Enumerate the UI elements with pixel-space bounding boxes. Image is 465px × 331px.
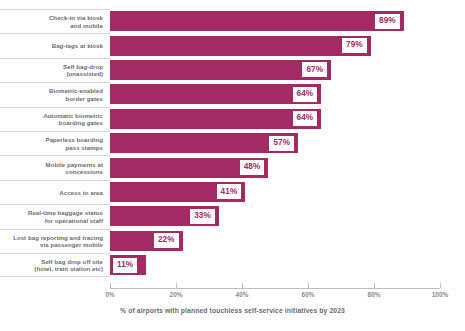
category-label: Biometric-enabledborder gates (49, 87, 103, 102)
category-label-row: Real-time baggage statusfor operational … (0, 204, 110, 228)
category-label-row: Paperless boardingpass stamps (0, 131, 110, 155)
bar-row: 89% (110, 9, 465, 33)
bar-row: 11% (110, 253, 465, 277)
bar[interactable]: 89% (110, 11, 404, 31)
bar[interactable]: 57% (110, 133, 298, 153)
bar-value-label: 41% (216, 183, 243, 200)
x-axis-tick-label: 60% (302, 291, 315, 298)
category-label: Check-in via kioskand mobile (49, 14, 103, 29)
bar-row: 48% (110, 155, 465, 179)
x-axis-tick-label: 0% (105, 291, 114, 298)
category-label-row: Self bag drop off site(hotel, train stat… (0, 253, 110, 277)
category-label-row: Biometric-enabledborder gates (0, 82, 110, 106)
category-label: Lost bag reporting and tracingvia passen… (13, 234, 103, 249)
bar-value-label: 57% (268, 135, 295, 152)
bar[interactable]: 79% (110, 36, 371, 56)
bar-value-label: 79% (341, 37, 368, 54)
bar-row: 67% (110, 58, 465, 82)
bar-row: 22% (110, 229, 465, 253)
bar-series: 89%79%67%64%64%57%48%41%33%22%11% (110, 9, 465, 277)
x-axis-tick (440, 283, 441, 288)
category-label: Automatic biometricboarding gates (43, 112, 103, 127)
bar[interactable]: 64% (110, 109, 321, 129)
bar[interactable]: 64% (110, 84, 321, 104)
bar[interactable]: 67% (110, 60, 331, 80)
category-label: Real-time baggage statusfor operational … (28, 209, 103, 224)
bar[interactable]: 41% (110, 182, 245, 202)
bar-row: 33% (110, 204, 465, 228)
category-label-row: Bag-tags at kiosk (0, 33, 110, 57)
x-axis-tick-label: 100% (432, 291, 448, 298)
category-label-row: Lost bag reporting and tracingvia passen… (0, 229, 110, 253)
bar-row: 41% (110, 180, 465, 204)
bar[interactable]: 22% (110, 231, 183, 251)
x-axis-tick-label: 20% (170, 291, 183, 298)
bar-value-label: 89% (374, 13, 401, 30)
x-axis-tick (110, 283, 111, 288)
category-label: Paperless boardingpass stamps (46, 136, 103, 151)
category-label-row: Access to area (0, 180, 110, 204)
bar-row: 64% (110, 107, 465, 131)
category-label-row: Self bag-drop(unassisted) (0, 58, 110, 82)
bar[interactable]: 48% (110, 158, 268, 178)
category-label: Mobile payments atconcessions (46, 161, 103, 176)
bar[interactable]: 33% (110, 206, 219, 226)
bar-value-label: 64% (292, 110, 319, 127)
bar-value-label: 67% (301, 61, 328, 78)
bar-row: 64% (110, 82, 465, 106)
bar[interactable]: 11% (110, 255, 146, 275)
x-axis-line (110, 288, 440, 289)
x-axis-caption: % of airports with planned touchless sel… (0, 307, 465, 314)
bar-value-label: 48% (239, 159, 266, 176)
bar-value-label: 22% (153, 232, 180, 249)
category-label-row: Check-in via kioskand mobile (0, 9, 110, 33)
x-axis-tick (308, 283, 309, 288)
category-label-row: Automatic biometricboarding gates (0, 107, 110, 131)
bar-value-label: 33% (189, 208, 216, 225)
x-axis-tick-label: 40% (236, 291, 249, 298)
category-label-row: Mobile payments atconcessions (0, 155, 110, 179)
bar-value-label: 11% (112, 257, 138, 274)
category-label: Self bag-drop(unassisted) (63, 63, 103, 78)
bar-row: 79% (110, 33, 465, 57)
x-axis-tick (242, 283, 243, 288)
bar-row: 57% (110, 131, 465, 155)
category-label: Bag-tags at kiosk (52, 42, 103, 49)
plot-area: Check-in via kioskand mobileBag-tags at … (0, 0, 465, 331)
horizontal-bar-chart: Check-in via kioskand mobileBag-tags at … (0, 0, 465, 331)
x-axis-tick (374, 283, 375, 288)
bar-value-label: 64% (292, 86, 319, 103)
category-label-column: Check-in via kioskand mobileBag-tags at … (0, 9, 110, 277)
category-label: Access to area (59, 189, 103, 196)
category-label: Self bag drop off site(hotel, train stat… (34, 258, 103, 273)
x-axis-tick (176, 283, 177, 288)
x-axis-tick-label: 80% (368, 291, 381, 298)
